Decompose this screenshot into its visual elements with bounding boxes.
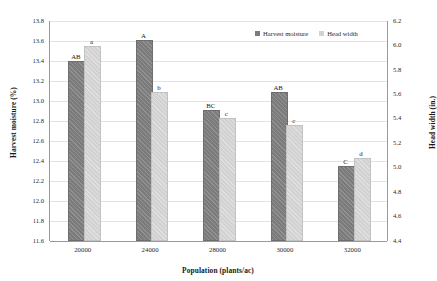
bar-significance-label: BC (197, 103, 224, 110)
y-axis-left-tick-label: 13.0 (4, 98, 44, 105)
y-axis-left-tick-label: 13.4 (4, 58, 44, 65)
x-axis-category-label: 20000 (53, 246, 113, 253)
bar-significance-label: b (145, 85, 172, 92)
y-axis-left-tick-label: 12.6 (4, 138, 44, 145)
x-axis-category-label: 24000 (120, 246, 180, 253)
y-axis-left-tick-label: 12.8 (4, 118, 44, 125)
y-axis-left-tick-label: 13.8 (4, 18, 44, 25)
y-axis-right-tick-label: 4.6 (393, 213, 433, 220)
bar-moisture (68, 61, 85, 241)
y-axis-left-tick-label: 11.6 (4, 238, 44, 245)
bar-moisture (203, 110, 220, 241)
y-axis-left-tick-label: 11.8 (4, 218, 44, 225)
gridline (50, 21, 387, 22)
bar-headwidth (286, 125, 303, 241)
bar-significance-label: A (130, 33, 157, 40)
gridline (50, 241, 387, 242)
y-axis-right-tick-label: 6.0 (393, 42, 433, 49)
bar-moisture (136, 40, 153, 241)
bar-moisture (271, 92, 288, 241)
bar-moisture (338, 166, 355, 241)
y-axis-right-tick-label: 5.0 (393, 164, 433, 171)
x-axis-category-label: 30000 (255, 246, 315, 253)
x-axis-category-label: 32000 (322, 246, 382, 253)
y-axis-right-tick-label: 4.4 (393, 238, 433, 245)
x-axis-title: Population (plants/ac) (0, 266, 436, 275)
y-axis-right-tick-label: 4.8 (393, 189, 433, 196)
bar-headwidth (84, 46, 101, 241)
bar-headwidth (151, 92, 168, 241)
y-axis-right-tick-label: 5.8 (393, 67, 433, 74)
bar-significance-label: c (213, 111, 240, 118)
bar-headwidth (219, 118, 236, 241)
y-axis-left-tick-label: 12.0 (4, 198, 44, 205)
y-axis-left-tick-label: 12.4 (4, 158, 44, 165)
plot-area: ABaAbBCcABcCd (49, 21, 388, 241)
bar-significance-label: AB (265, 85, 292, 92)
y-axis-left-tick-label: 12.2 (4, 178, 44, 185)
y-axis-left-tick-label: 13.2 (4, 78, 44, 85)
y-axis-right-tick-label: 5.2 (393, 140, 433, 147)
bar-significance-label: c (280, 118, 307, 125)
x-axis-category-label: 28000 (188, 246, 248, 253)
bar-significance-label: d (348, 151, 375, 158)
y-axis-right-tick-label: 5.4 (393, 115, 433, 122)
y-axis-right-tick-label: 5.6 (393, 91, 433, 98)
bar-headwidth (354, 158, 371, 241)
y-axis-right-tick-label: 6.2 (393, 18, 433, 25)
y-axis-left-tick-label: 13.6 (4, 38, 44, 45)
bar-significance-label: a (78, 39, 105, 46)
